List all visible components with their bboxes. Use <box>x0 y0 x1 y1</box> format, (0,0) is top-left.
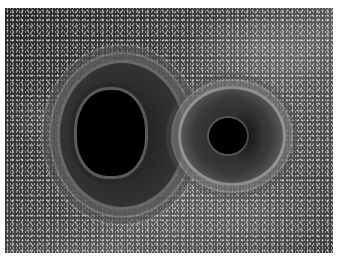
black-hole-merger-image <box>5 8 333 253</box>
large-black-hole-event-horizon <box>77 90 145 176</box>
small-black-hole-event-horizon <box>209 118 247 154</box>
